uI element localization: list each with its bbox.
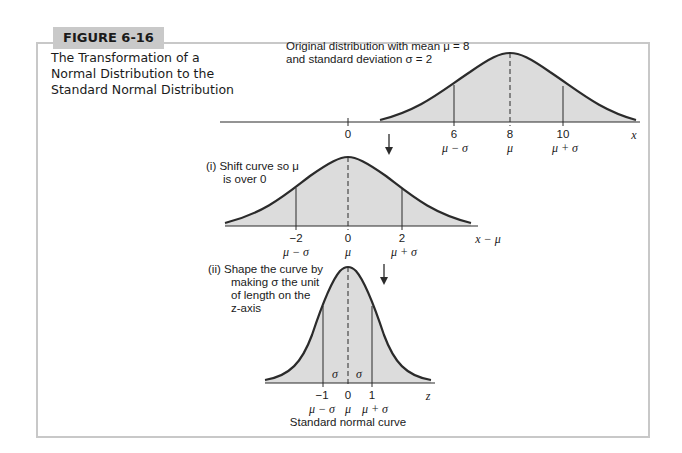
down-arrow-icon (385, 134, 393, 155)
standard-curve (265, 267, 435, 387)
tick-label: 8 (507, 128, 513, 140)
tick-sublabel: μ (344, 245, 351, 259)
tick-sublabel: μ − σ (282, 245, 310, 259)
tick-sublabel: μ + σ (361, 402, 389, 416)
axis-label: x (630, 128, 637, 142)
axis-label: x − μ (474, 232, 500, 246)
original-curve (220, 53, 640, 126)
tick-label: −1 (315, 389, 328, 401)
tick-label: 2 (399, 232, 405, 244)
tick-sublabel: μ (344, 402, 351, 416)
axis-label: z (425, 389, 431, 403)
tick-sublabel: μ + σ (551, 141, 579, 155)
tick-sublabel: μ − σ (441, 141, 469, 155)
tick-label: 1 (369, 389, 375, 401)
tick-label: 6 (451, 128, 457, 140)
transformation-diagram: 0 6 8 10 μ − σ μ μ + σ x −2 0 2 μ − σ μ … (0, 0, 682, 453)
shifted-curve (225, 157, 478, 230)
tick-label: 10 (557, 128, 570, 140)
shifted-tick-labels: −2 0 2 μ − σ μ μ + σ x − μ (282, 232, 501, 259)
tick-sublabel: μ (506, 141, 513, 155)
tick-label: 0 (345, 232, 351, 244)
tick-label: 0 (345, 389, 351, 401)
tick-sublabel: μ − σ (308, 402, 336, 416)
tick-label: 0 (345, 128, 351, 140)
standard-normal-caption: Standard normal curve (290, 416, 406, 428)
down-arrow-icon (380, 264, 388, 285)
tick-sublabel: μ + σ (390, 245, 418, 259)
tick-label: −2 (289, 232, 302, 244)
